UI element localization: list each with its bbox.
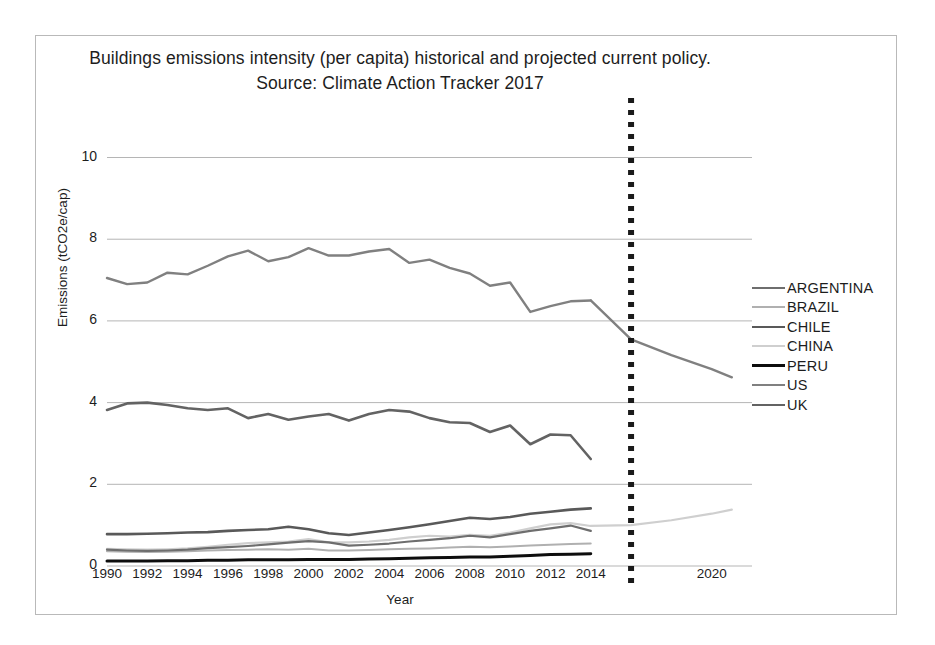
legend-swatch-icon	[752, 384, 785, 386]
legend-label: ARGENTINA	[787, 280, 873, 296]
legend-swatch-icon	[752, 345, 785, 347]
legend-swatch-icon	[752, 364, 785, 367]
legend-label: PERU	[787, 358, 828, 374]
series-line-peru	[107, 554, 591, 561]
chart-figure: Buildings emissions intensity (per capit…	[0, 0, 935, 645]
legend-item-chile[interactable]: CHILE	[752, 317, 902, 337]
legend-label: CHINA	[787, 338, 833, 354]
legend-item-china[interactable]: CHINA	[752, 337, 902, 357]
legend-label: CHILE	[787, 319, 831, 335]
projection-line-china	[591, 510, 732, 526]
series-line-uk	[107, 403, 591, 459]
legend-swatch-icon	[752, 306, 785, 308]
legend-swatch-icon	[752, 404, 785, 406]
series-lines	[107, 248, 732, 561]
legend-item-uk[interactable]: UK	[752, 395, 902, 415]
legend-label: BRAZIL	[787, 299, 839, 315]
legend-label: UK	[787, 397, 808, 413]
series-line-us	[107, 248, 591, 312]
chart-legend: ARGENTINABRAZILCHILECHINAPERUUSUK	[752, 278, 902, 415]
legend-label: US	[787, 377, 808, 393]
gridlines	[107, 158, 752, 566]
series-line-argentina	[107, 526, 591, 551]
legend-item-argentina[interactable]: ARGENTINA	[752, 278, 902, 298]
legend-item-peru[interactable]: PERU	[752, 356, 902, 376]
legend-item-us[interactable]: US	[752, 376, 902, 396]
legend-swatch-icon	[752, 287, 785, 289]
legend-item-brazil[interactable]: BRAZIL	[752, 298, 902, 318]
projection-line-us	[591, 300, 732, 377]
legend-swatch-icon	[752, 326, 785, 328]
